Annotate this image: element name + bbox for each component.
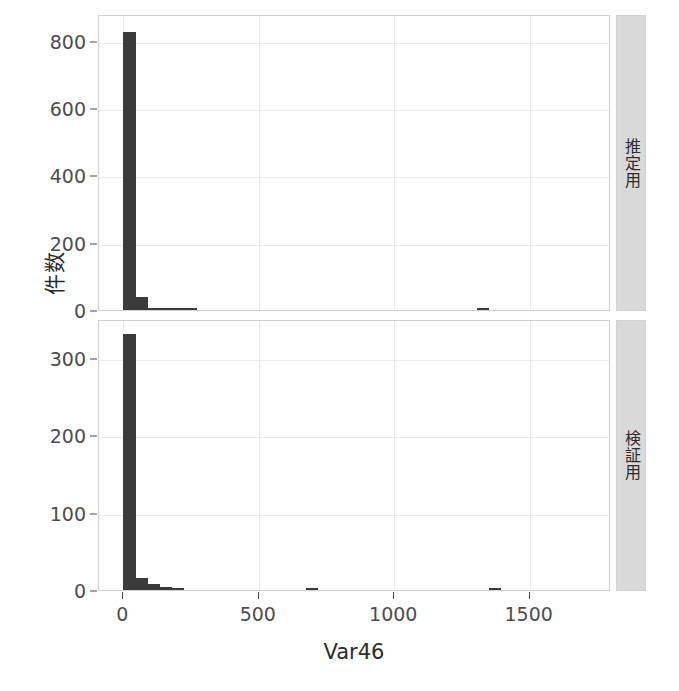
- histogram-bar: [160, 587, 172, 590]
- histogram-bar: [172, 308, 184, 310]
- gridline-vertical: [259, 321, 260, 590]
- gridline-horizontal: [99, 437, 609, 438]
- y-tick-label: 0: [28, 300, 86, 322]
- histogram-bar: [489, 588, 501, 590]
- plot-area-estimation: [99, 16, 609, 310]
- x-tick-mark: [122, 592, 123, 599]
- histogram-bar: [160, 308, 172, 310]
- histogram-bar: [477, 308, 489, 310]
- gridline-horizontal: [99, 360, 609, 361]
- x-tick-label: 500: [223, 603, 293, 625]
- y-tick-mark: [90, 436, 97, 437]
- gridline-vertical: [394, 321, 395, 590]
- x-tick-label: 1000: [358, 603, 428, 625]
- gridline-horizontal: [99, 177, 609, 178]
- y-tick-mark: [90, 243, 97, 244]
- histogram-bar: [136, 297, 148, 310]
- y-tick-label: 100: [28, 503, 86, 525]
- strip-label-validation: 検証用: [616, 320, 646, 591]
- y-tick-mark: [90, 311, 97, 312]
- histogram-bar: [148, 584, 160, 590]
- x-axis-title: Var46: [98, 640, 610, 664]
- histogram-bar: [148, 308, 160, 310]
- y-tick-mark: [90, 513, 97, 514]
- x-tick-mark: [258, 592, 259, 599]
- histogram-figure: 件数 Var46 推定用 検証用 0200400600800 010020030…: [0, 0, 679, 691]
- gridline-horizontal: [99, 43, 609, 44]
- gridline-vertical: [530, 16, 531, 310]
- strip-label-estimation: 推定用: [616, 15, 646, 311]
- y-tick-mark: [90, 358, 97, 359]
- y-tick-mark: [90, 591, 97, 592]
- gridline-horizontal: [99, 515, 609, 516]
- y-tick-label: 0: [28, 580, 86, 602]
- y-tick-label: 200: [28, 233, 86, 255]
- histogram-bar: [123, 334, 135, 590]
- y-tick-label: 600: [28, 98, 86, 120]
- strip-text-estimation: 推定用: [619, 138, 643, 189]
- y-tick-label: 300: [28, 348, 86, 370]
- histogram-bar: [136, 578, 148, 590]
- panel-estimation: [98, 15, 610, 311]
- y-tick-label: 400: [28, 165, 86, 187]
- x-tick-label: 1500: [494, 603, 564, 625]
- strip-text-validation: 検証用: [619, 430, 643, 481]
- x-tick-mark: [393, 592, 394, 599]
- gridline-vertical: [259, 16, 260, 310]
- gridline-vertical: [530, 321, 531, 590]
- y-tick-label: 200: [28, 425, 86, 447]
- panel-validation: [98, 320, 610, 591]
- y-tick-mark: [90, 176, 97, 177]
- gridline-horizontal: [99, 245, 609, 246]
- gridline-horizontal: [99, 110, 609, 111]
- x-tick-label: 0: [87, 603, 157, 625]
- x-tick-mark: [529, 592, 530, 599]
- gridline-vertical: [394, 16, 395, 310]
- y-tick-mark: [90, 109, 97, 110]
- plot-area-validation: [99, 321, 609, 590]
- histogram-bar: [123, 32, 135, 310]
- histogram-bar: [306, 588, 318, 590]
- y-tick-label: 800: [28, 31, 86, 53]
- y-tick-mark: [90, 41, 97, 42]
- histogram-bar: [172, 588, 184, 590]
- histogram-bar: [184, 308, 196, 310]
